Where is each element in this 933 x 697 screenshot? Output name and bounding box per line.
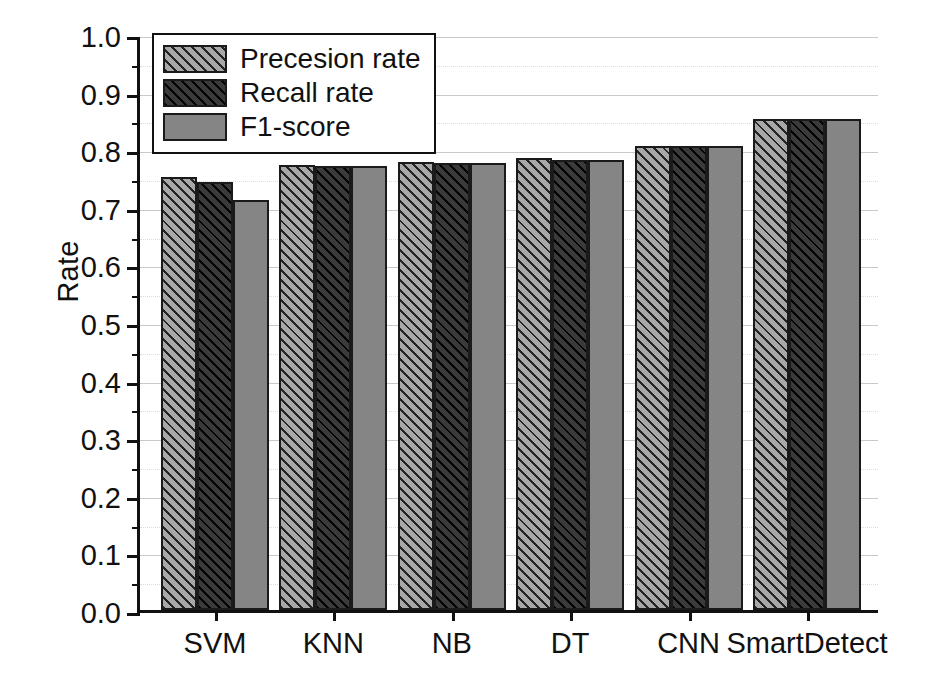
y-tick-major [127,498,140,501]
legend-swatch-f1 [163,113,227,141]
bar [233,200,269,610]
bar [279,165,315,610]
bar [161,177,197,610]
bar [588,160,624,610]
y-tick-major [127,555,140,558]
legend-item-precision: Precesion rate [163,42,421,76]
y-tick-minor [132,584,140,586]
x-tick-label: SmartDetect [726,627,887,660]
y-tick-label: 0.3 [81,424,121,457]
y-tick-label: 0.9 [81,78,121,111]
x-tick-label: DT [551,627,590,660]
legend-item-f1: F1-score [163,110,421,144]
x-tick-label: KNN [303,627,364,660]
bar [470,163,506,610]
y-tick-minor [132,469,140,471]
y-tick-label: 0.4 [81,366,121,399]
y-tick-label: 0.6 [81,251,121,284]
bar [434,163,470,610]
legend-swatch-recall [163,79,227,107]
y-tick-major [127,613,140,616]
x-tick [807,610,810,621]
x-tick [452,610,455,621]
x-tick-label: CNN [657,627,720,660]
bar [552,160,588,610]
bar [707,146,743,610]
legend-item-recall: Recall rate [163,76,421,110]
legend-label-precision: Precesion rate [240,45,421,73]
bar [516,158,552,610]
y-tick-minor [132,239,140,241]
bar [789,119,825,610]
y-tick-label: 0.2 [81,481,121,514]
legend-swatch-precision [163,45,227,73]
bar [197,182,233,610]
y-tick-minor [132,66,140,68]
x-tick [689,610,692,621]
bar [635,146,671,610]
y-tick-major [127,383,140,386]
x-tick-label: NB [432,627,472,660]
y-tick-label: 0.8 [81,136,121,169]
y-tick-minor [132,181,140,183]
x-tick [570,610,573,621]
x-tick [215,610,218,621]
y-tick-major [127,267,140,270]
y-tick-label: 0.1 [81,539,121,572]
y-tick-major [127,37,140,40]
legend-label-f1: F1-score [240,113,350,141]
bar [671,146,707,610]
bar [825,119,861,610]
legend-label-recall: Recall rate [240,79,374,107]
bar [753,119,789,610]
y-tick-major [127,95,140,98]
legend: Precesion rate Recall rate F1-score [152,33,436,154]
bar [351,166,387,610]
y-tick-label: 0.7 [81,193,121,226]
x-tick-label: SVM [184,627,247,660]
x-tick [333,610,336,621]
y-tick-major [127,152,140,155]
y-tick-major [127,210,140,213]
chart-figure: Rate 0.00.10.20.30.40.50.60.70.80.91.0 S… [0,0,933,697]
y-tick-label: 1.0 [81,21,121,54]
y-tick-minor [132,411,140,413]
bar [315,166,351,610]
y-tick-label: 0.0 [81,597,121,630]
y-tick-minor [132,296,140,298]
y-axis-label: Rate [52,202,85,342]
y-tick-label: 0.5 [81,309,121,342]
y-tick-minor [132,123,140,125]
y-tick-minor [132,354,140,356]
y-tick-major [127,440,140,443]
bar [398,162,434,610]
y-tick-major [127,325,140,328]
y-tick-minor [132,527,140,529]
